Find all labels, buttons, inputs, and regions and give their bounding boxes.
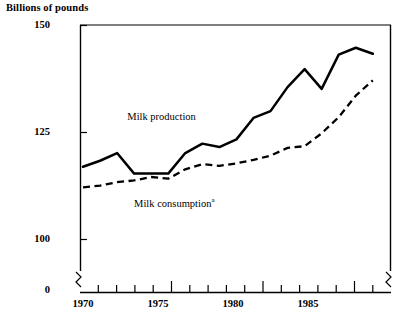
x-tick-marks-group	[98, 281, 373, 292]
series-line-milk-production	[83, 48, 373, 174]
plot-area	[0, 0, 399, 317]
series-line-milk-consumption	[83, 80, 373, 187]
y-axis-break-right	[386, 272, 391, 287]
milk-production-consumption-chart: Billions of pounds 150 125 100 0 1970 19…	[0, 0, 399, 317]
y-axis-break-left	[76, 272, 81, 287]
